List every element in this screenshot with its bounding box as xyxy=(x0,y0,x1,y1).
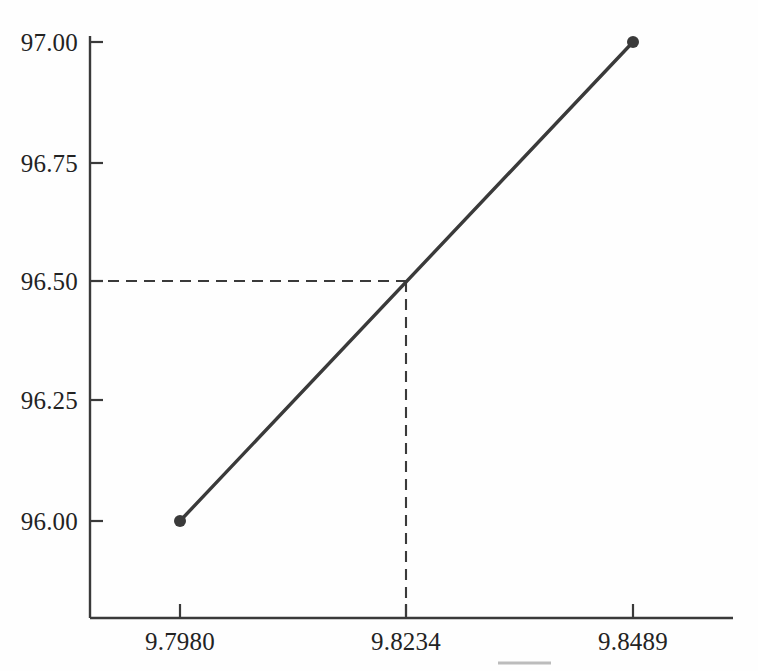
x-tick-label-9-7980: 9.7980 xyxy=(110,629,250,654)
y-tick-label-96-00: 96.00 xyxy=(0,509,78,534)
y-tick-label-97-00: 97.00 xyxy=(0,30,78,55)
data-point-marker-left xyxy=(174,515,186,527)
interpolation-chart-figure: 97.00 96.75 96.50 96.25 96.00 9.7980 9.8… xyxy=(0,0,758,671)
data-point-marker-right xyxy=(627,36,639,48)
y-tick-label-96-75: 96.75 xyxy=(0,151,78,176)
y-tick-label-96-25: 96.25 xyxy=(0,388,78,413)
x-tick-label-9-8489: 9.8489 xyxy=(563,629,703,654)
y-tick-label-96-50: 96.50 xyxy=(0,269,78,294)
chart-plot-area xyxy=(0,0,758,671)
x-tick-label-9-8234: 9.8234 xyxy=(336,629,476,654)
